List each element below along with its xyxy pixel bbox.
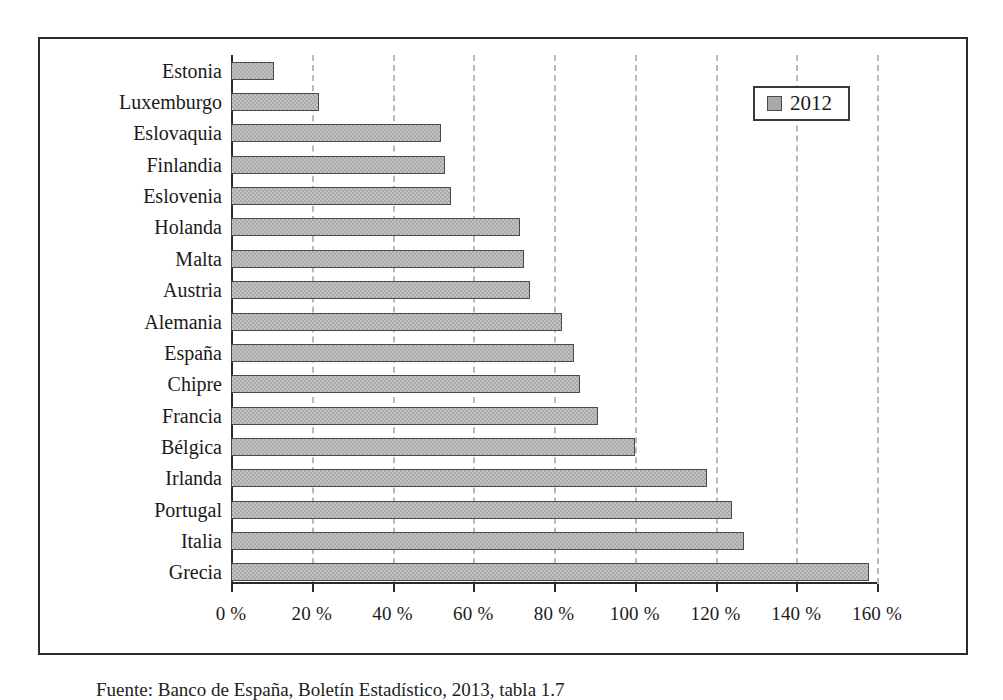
chart-frame: EstoniaLuxemburgoEslovaquiaFinlandiaEslo… (38, 37, 968, 655)
bar (231, 407, 598, 425)
bar-row (231, 87, 319, 117)
bar (231, 93, 319, 111)
category-label-wrap: Eslovaquia (40, 118, 231, 148)
bar-row (231, 56, 274, 86)
bar-row (231, 557, 869, 587)
category-label-wrap: Grecia (40, 557, 231, 587)
x-tick-label-120: 120 % (690, 603, 740, 625)
category-label-wrap: Irlanda (40, 463, 231, 493)
bar-row (231, 526, 744, 556)
category-label-wrap: Austria (40, 275, 231, 305)
legend-label: 2012 (790, 93, 832, 114)
category-label-wrap: Portugal (40, 495, 231, 525)
bar (231, 438, 635, 456)
chart-legend: 2012 (753, 86, 850, 121)
category-label-wrap: Alemania (40, 307, 231, 337)
bar-row (231, 181, 451, 211)
x-tick-label-40: 40 % (372, 603, 412, 625)
x-tick-label-140: 140 % (771, 603, 821, 625)
legend-swatch-icon (767, 96, 782, 111)
bar (231, 62, 274, 80)
category-label-wrap: Eslovenia (40, 181, 231, 211)
category-label: Irlanda (46, 463, 231, 493)
bar (231, 281, 530, 299)
category-label: Luxemburgo (46, 87, 231, 117)
category-label-wrap: Malta (40, 244, 231, 274)
bar (231, 124, 441, 142)
x-tick-label-0: 0 % (216, 603, 247, 625)
bar (231, 156, 445, 174)
bar (231, 375, 580, 393)
category-label-wrap: Estonia (40, 56, 231, 86)
plot-area: EstoniaLuxemburgoEslovaquiaFinlandiaEslo… (40, 39, 966, 653)
bar-row (231, 369, 580, 399)
bar (231, 469, 707, 487)
category-label: Finlandia (46, 150, 231, 180)
x-tick-0 (231, 584, 233, 592)
x-tick-140 (796, 584, 798, 592)
x-tick-label-160: 160 % (852, 603, 902, 625)
category-label: Austria (46, 275, 231, 305)
category-label: Bélgica (46, 432, 231, 462)
category-label: Malta (46, 244, 231, 274)
category-label-wrap: Italia (40, 526, 231, 556)
x-tick-80 (554, 584, 556, 592)
category-label: Francia (46, 401, 231, 431)
bar-row (231, 401, 598, 431)
bar (231, 344, 574, 362)
category-label-wrap: Holanda (40, 212, 231, 242)
figure-caption: Fuente: Banco de España, Boletín Estadís… (96, 679, 565, 700)
x-tick-label-80: 80 % (534, 603, 574, 625)
bar (231, 532, 744, 550)
category-label-wrap: Finlandia (40, 150, 231, 180)
bar-row (231, 275, 530, 305)
category-label: Alemania (46, 307, 231, 337)
bar-row (231, 432, 635, 462)
bar-series-2012: EstoniaLuxemburgoEslovaquiaFinlandiaEslo… (40, 55, 966, 584)
category-label-wrap: Luxemburgo (40, 87, 231, 117)
bar (231, 250, 524, 268)
bar (231, 501, 732, 519)
category-label: Holanda (46, 212, 231, 242)
bar-row (231, 150, 445, 180)
x-tick-160 (877, 584, 879, 592)
bar-row (231, 244, 524, 274)
bar (231, 563, 869, 581)
bar-row (231, 495, 732, 525)
category-label: Grecia (46, 557, 231, 587)
x-tick-100 (635, 584, 637, 592)
x-tick-label-20: 20 % (292, 603, 332, 625)
bar-row (231, 118, 441, 148)
category-label: Italia (46, 526, 231, 556)
x-tick-20 (312, 584, 314, 592)
category-label: Eslovaquia (46, 118, 231, 148)
bar-row (231, 463, 707, 493)
x-tick-120 (716, 584, 718, 592)
bar-row (231, 338, 574, 368)
category-label: Eslovenia (46, 181, 231, 211)
x-tick-40 (393, 584, 395, 592)
category-label: Estonia (46, 56, 231, 86)
category-label: España (46, 338, 231, 368)
category-label: Chipre (46, 369, 231, 399)
bar (231, 187, 451, 205)
bar (231, 218, 520, 236)
bar (231, 313, 562, 331)
x-tick-label-60: 60 % (453, 603, 493, 625)
bar-row (231, 212, 520, 242)
category-label-wrap: Bélgica (40, 432, 231, 462)
x-tick-60 (473, 584, 475, 592)
chart-page: EstoniaLuxemburgoEslovaquiaFinlandiaEslo… (0, 0, 1003, 700)
category-label-wrap: Chipre (40, 369, 231, 399)
category-label-wrap: España (40, 338, 231, 368)
bar-row (231, 307, 562, 337)
x-tick-label-100: 100 % (610, 603, 660, 625)
category-label: Portugal (46, 495, 231, 525)
category-label-wrap: Francia (40, 401, 231, 431)
